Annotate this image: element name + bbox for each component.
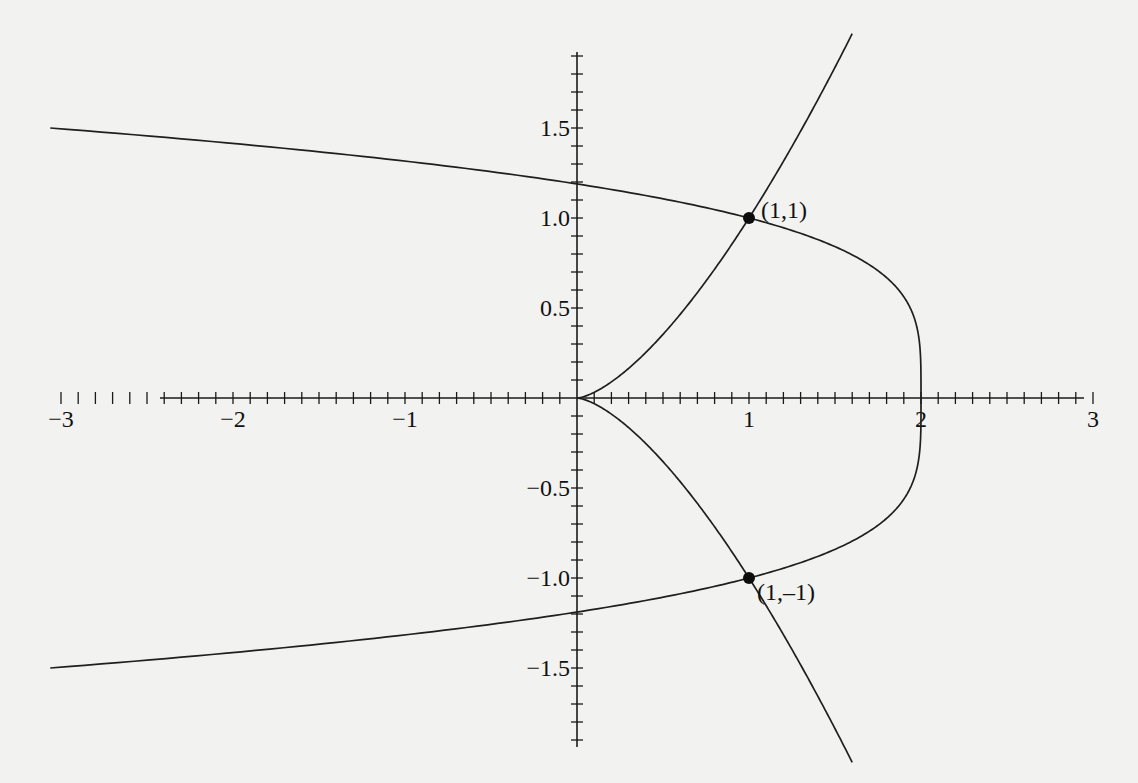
- y-tick-label: −0.5: [526, 475, 570, 501]
- intersection-annotations: (1,1) (1,–1): [743, 197, 815, 605]
- intersection-point-marker: [743, 572, 755, 584]
- x-tick-label: 3: [1087, 406, 1099, 432]
- y-tick-label: 1.0: [540, 205, 570, 231]
- axes: −3−2−1123 −1.5−1.0−0.50.51.01.5: [48, 52, 1099, 747]
- x-tick-label: −3: [48, 406, 74, 432]
- x-tick-label: 1: [743, 406, 755, 432]
- y-tick-label: −1.0: [526, 565, 570, 591]
- y-tick-label: 0.5: [540, 295, 570, 321]
- plot-area: −3−2−1123 −1.5−1.0−0.50.51.01.5 (1,1) (1…: [0, 0, 1138, 783]
- chart-figure: −3−2−1123 −1.5−1.0−0.50.51.01.5 (1,1) (1…: [0, 0, 1138, 783]
- x-tick-label: −1: [392, 406, 418, 432]
- intersection-point-marker: [743, 212, 755, 224]
- y-tick-label: −1.5: [526, 655, 570, 681]
- x-tick-labels: −3−2−1123: [48, 406, 1099, 432]
- intersection-label: (1,1): [761, 197, 807, 223]
- y-tick-label: 1.5: [540, 115, 570, 141]
- x-tick-label: −2: [220, 406, 246, 432]
- intersection-label: (1,–1): [757, 579, 815, 605]
